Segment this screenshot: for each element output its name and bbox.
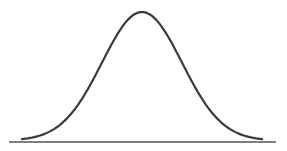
- bell-curve-chart: [0, 0, 287, 151]
- normal-distribution-curve: [22, 12, 262, 139]
